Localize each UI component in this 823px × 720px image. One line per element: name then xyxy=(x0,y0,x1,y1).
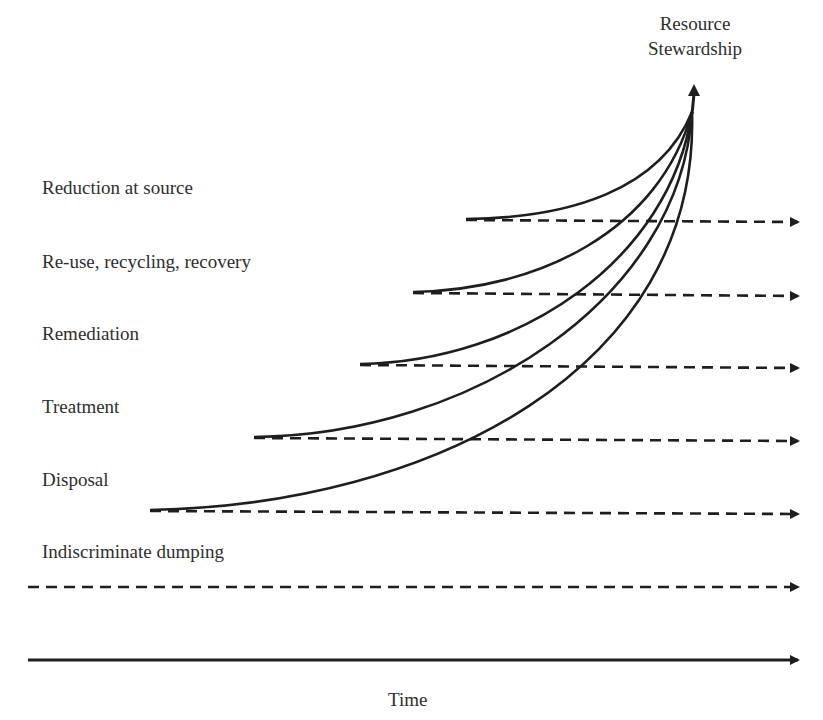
diagram-graphics xyxy=(0,0,823,720)
curve-reduction-at-source xyxy=(466,112,692,219)
dashed-arrow-reduction-at-source xyxy=(466,220,798,222)
curve-treatment xyxy=(254,112,692,437)
resource-stewardship-arrow xyxy=(692,94,694,114)
curve-reuse xyxy=(413,112,692,292)
dashed-arrow-disposal xyxy=(150,511,798,514)
curve-remediation xyxy=(360,112,692,364)
resource-stewardship-arrowhead-icon xyxy=(688,84,700,96)
waste-management-hierarchy-diagram: Resource Stewardship Reduction at source… xyxy=(0,0,823,720)
curve-disposal xyxy=(150,112,692,510)
dashed-arrow-treatment xyxy=(254,438,798,441)
